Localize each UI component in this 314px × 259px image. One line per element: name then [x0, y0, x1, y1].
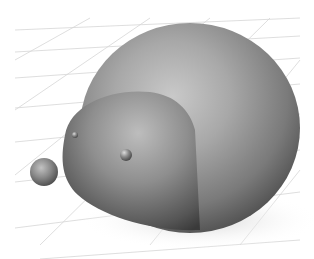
nose-sphere — [30, 158, 58, 186]
render-viewport — [0, 0, 314, 259]
head-ellipsoid — [63, 91, 200, 230]
eye-right-sphere — [120, 149, 132, 161]
eye-left-sphere — [72, 132, 78, 138]
